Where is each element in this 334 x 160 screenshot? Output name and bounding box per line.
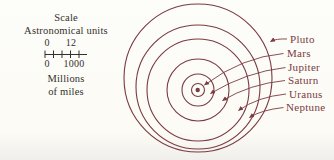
sun-dot: [196, 88, 200, 92]
orbit-ring-pluto: [124, 4, 272, 152]
orbit-ring-neptune: [136, 25, 260, 149]
label-pluto: Pluto: [290, 33, 315, 45]
label-jupiter: Jupiter: [288, 61, 320, 73]
leader-arrow-pluto: [271, 39, 288, 42]
orbits-diagram: [0, 0, 334, 160]
label-uranus: Uranus: [289, 88, 323, 100]
orbit-scale-figure: Scale Astronomical units 0 12 0 1000: [0, 0, 334, 160]
label-saturn: Saturn: [288, 74, 319, 86]
label-neptune: Neptune: [286, 101, 325, 113]
leader-arrow-saturn: [223, 81, 286, 101]
label-mars: Mars: [287, 47, 311, 59]
